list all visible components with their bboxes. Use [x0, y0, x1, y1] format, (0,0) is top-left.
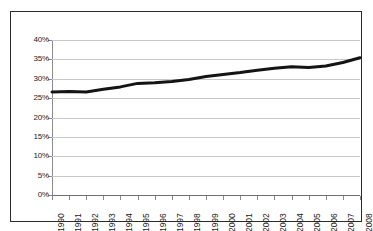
x-tick-mark [223, 196, 224, 200]
x-tick-label: 2007 [346, 213, 356, 231]
x-tick-label: 1992 [90, 213, 100, 231]
x-axis-labels: 1990199119921993199419951996199719981999… [52, 201, 372, 231]
x-tick-mark [360, 196, 361, 200]
x-tick-label: 2003 [278, 213, 288, 231]
chart-frame: 0%5%10%15%20%25%30%35%40% 19901991199219… [10, 11, 362, 222]
x-tick-mark [86, 196, 87, 200]
x-tick-label: 2001 [244, 213, 254, 231]
y-tick-label: 35% [23, 55, 49, 63]
x-tick-label: 1995 [141, 213, 151, 231]
x-tick-mark [155, 196, 156, 200]
x-tick-mark [172, 196, 173, 200]
y-tick-label: 10% [23, 152, 49, 160]
y-axis-labels: 0%5%10%15%20%25%30%35%40% [21, 40, 49, 196]
y-tick-label: 0% [23, 191, 49, 199]
y-tick-label: 5% [23, 172, 49, 180]
x-tick-mark [309, 196, 310, 200]
x-tick-label: 2004 [295, 213, 305, 231]
x-tick-label: 2000 [227, 213, 237, 231]
x-tick-label: 1999 [210, 213, 220, 231]
y-tick-label: 20% [23, 114, 49, 122]
chart-figure: 0%5%10%15%20%25%30%35%40% 19901991199219… [0, 0, 373, 231]
x-tick-mark [257, 196, 258, 200]
x-tick-mark [103, 196, 104, 200]
x-tick-mark [343, 196, 344, 200]
x-tick-label: 2005 [312, 213, 322, 231]
x-tick-label: 1990 [56, 213, 66, 231]
x-tick-label: 2008 [364, 213, 373, 231]
x-tick-mark [326, 196, 327, 200]
x-tick-mark [69, 196, 70, 200]
x-tick-mark [52, 196, 53, 200]
y-tick-label: 25% [23, 94, 49, 102]
y-tick-label: 15% [23, 133, 49, 141]
x-tick-label: 1996 [158, 213, 168, 231]
y-tick-label: 30% [23, 75, 49, 83]
x-tick-mark [274, 196, 275, 200]
x-tick-mark [138, 196, 139, 200]
plot-area [52, 40, 360, 195]
x-tick-mark [120, 196, 121, 200]
x-tick-label: 1991 [73, 213, 83, 231]
x-tick-label: 2006 [329, 213, 339, 231]
x-tick-mark [240, 196, 241, 200]
x-tick-mark [189, 196, 190, 200]
y-tick-label: 40% [23, 36, 49, 44]
x-tick-label: 1993 [107, 213, 117, 231]
x-tick-mark [206, 196, 207, 200]
series-line [52, 40, 360, 195]
x-tick-label: 1998 [192, 213, 202, 231]
x-tick-label: 1994 [124, 213, 134, 231]
x-tick-label: 1997 [175, 213, 185, 231]
x-tick-mark [292, 196, 293, 200]
x-tick-label: 2002 [261, 213, 271, 231]
